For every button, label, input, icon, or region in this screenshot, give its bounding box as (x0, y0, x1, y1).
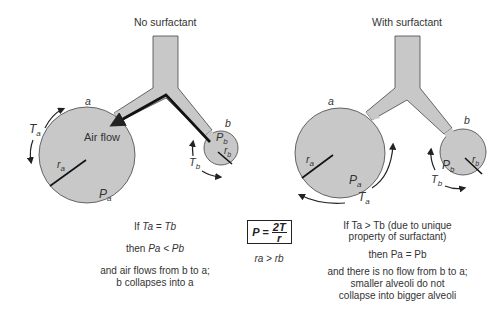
left-caption-line2: then Pa < Pb (80, 243, 230, 255)
left-caption-line4: b collapses into a (70, 277, 240, 289)
left-pressure-a-label: Pa (99, 187, 111, 203)
right-airway-tree (295, 36, 486, 198)
left-radius-a-label: ra (57, 158, 65, 173)
left-pressure-b-label: Pb (216, 131, 228, 146)
laplace-formula-box: P = 2Tr (247, 220, 292, 244)
left-alveolus-b-label: b (225, 117, 231, 129)
right-pressure-a-label: Pa (349, 173, 361, 189)
left-alveolus-a-label: a (85, 95, 91, 107)
left-tension-b-label: Tb (189, 156, 200, 171)
right-radius-b-label: rb (472, 154, 479, 167)
left-tension-a-arrow-down (30, 140, 33, 162)
left-radius-b-label: rb (224, 145, 231, 158)
right-panel-title: With surfactant (372, 16, 442, 28)
left-tension-b-arrow-right (202, 171, 220, 177)
left-airway-tree (39, 36, 238, 203)
right-caption-line4: and there is no flow from b to a; (305, 266, 490, 278)
right-caption-line3: then Pa = Pb (315, 249, 480, 261)
right-caption-line6: collapse into bigger alveoli (305, 290, 490, 302)
right-pressure-b-label: Pb (442, 158, 454, 174)
left-panel-title: No surfactant (134, 16, 196, 28)
right-radius-a-label: ra (306, 153, 314, 168)
right-tension-b-label: Tb (431, 173, 442, 188)
left-caption-line1: If Ta = Tb (80, 221, 230, 233)
right-tension-b-arrow-right (445, 186, 464, 189)
right-tension-b-arrow-up (431, 150, 435, 170)
left-caption-line3: and air flows from b to a; (70, 265, 240, 277)
left-airflow-label: Air flow (84, 131, 120, 143)
right-alveolus-b-label: b (464, 114, 470, 126)
right-caption-line2: property of surfactant) (315, 231, 480, 243)
left-tension-a-label: Ta (29, 122, 41, 138)
left-tension-b-arrow-up (193, 142, 194, 156)
right-tension-a-label: Ta (358, 190, 370, 206)
right-alveolus-a-label: a (328, 95, 334, 107)
right-caption-line5: smaller alveoli do not (305, 278, 490, 290)
radius-relation: ra > rb (245, 253, 293, 265)
